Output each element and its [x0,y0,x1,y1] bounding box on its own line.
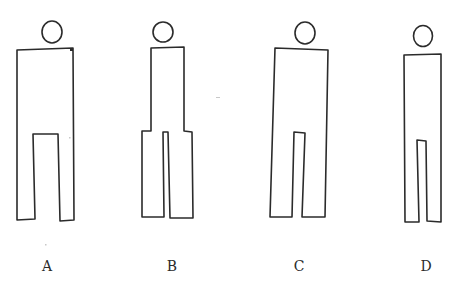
figure-a-body [17,48,74,221]
figure-c-body [270,48,328,217]
figure-c-label: C [294,258,305,274]
figure-c: C [270,22,328,274]
figure-d-label: D [420,258,431,274]
figure-d-body [404,54,441,222]
figure-a: A [17,21,74,274]
figure-b: B [142,22,193,274]
figure-b-label: B [167,258,177,274]
figure-a-head [42,21,62,43]
figure-b-head [153,22,173,42]
figure-c-head [295,22,315,44]
figure-a-label: A [41,258,53,274]
scan-speck [69,137,71,139]
figure-d: D [404,26,441,275]
scan-speck [45,244,47,246]
figure-d-head [414,26,433,47]
body-shape-diagram: A B C D [0,0,452,286]
scan-speck [216,97,220,98]
figure-a-shoulder-mark [70,48,73,51]
figure-b-body [142,47,193,218]
